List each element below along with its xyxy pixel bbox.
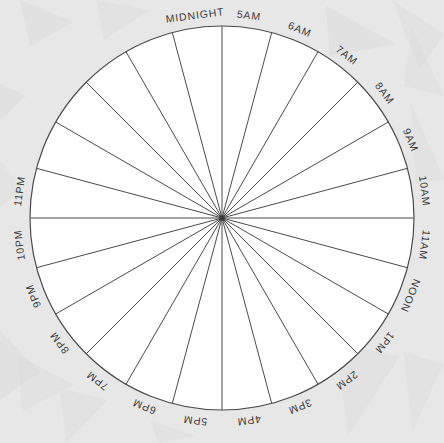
wheel-center-hub xyxy=(219,215,224,220)
wheel-graphic xyxy=(0,0,444,443)
clock-wheel-diagram: MIDNIGHT5AM6AM7AM8AM9AM10AM11AMNOON1PM2P… xyxy=(0,0,444,443)
